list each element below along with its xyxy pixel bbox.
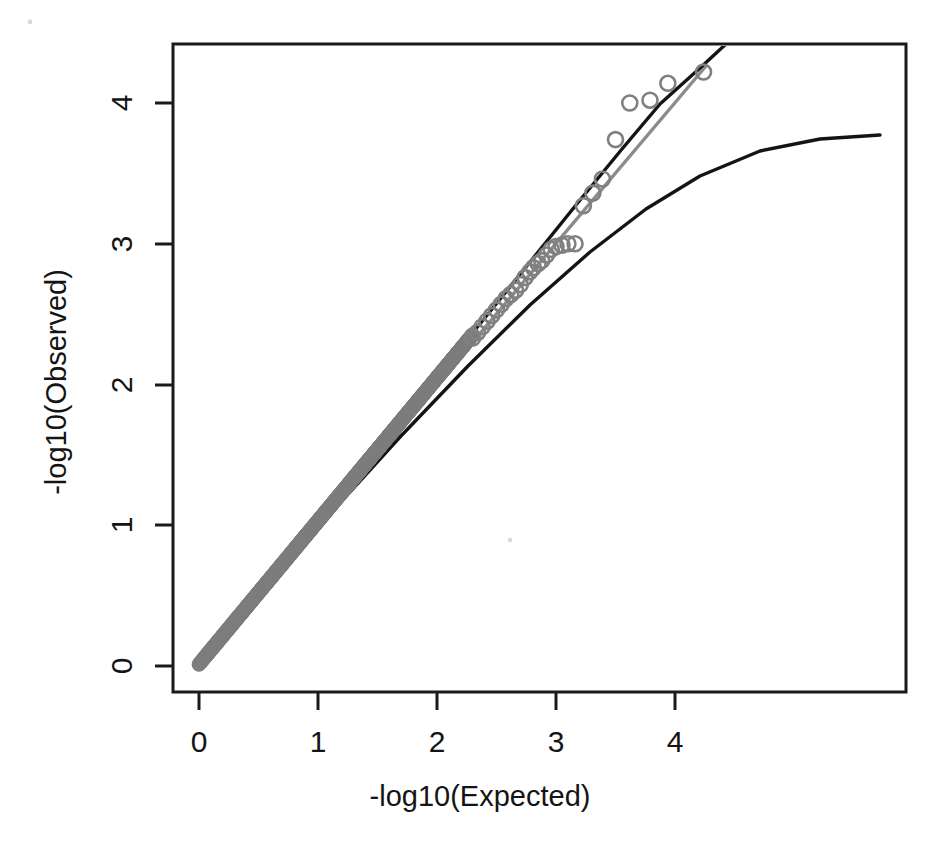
plot-frame: [173, 44, 906, 692]
observed-points-dense-band: [193, 329, 479, 671]
data-point: [643, 93, 658, 108]
data-point: [622, 96, 637, 111]
y-tick-label-1: 1: [105, 517, 138, 534]
scan-speck-mid: [508, 538, 512, 542]
y-tick-label-4: 4: [105, 95, 138, 112]
x-tick-label-0: 0: [191, 725, 208, 758]
y-tick-label-0: 0: [105, 658, 138, 675]
qq-plot-figure: 0 1 2 3 4 0 1 2 3 4 -log10(Expected) -lo…: [0, 0, 944, 853]
y-axis-title: -log10(Observed): [40, 269, 72, 495]
x-tick-label-1: 1: [310, 725, 327, 758]
y-tick-label-2: 2: [105, 377, 138, 394]
x-tick-label-4: 4: [667, 725, 684, 758]
data-point: [660, 76, 675, 91]
x-axis-tick-labels: 0 1 2 3 4: [191, 725, 684, 758]
x-tick-label-2: 2: [429, 725, 446, 758]
x-axis-title: -log10(Expected): [370, 780, 591, 812]
data-point: [608, 132, 623, 147]
qq-plot-canvas: 0 1 2 3 4 0 1 2 3 4 -log10(Expected) -lo…: [0, 0, 944, 853]
x-axis-ticks: [199, 692, 675, 710]
y-axis-tick-labels: 0 1 2 3 4: [105, 95, 138, 675]
y-axis-ticks: [155, 103, 173, 666]
lower-confidence-curve: [199, 135, 880, 666]
y-tick-label-3: 3: [105, 236, 138, 253]
scan-speck-top-left: [28, 20, 33, 25]
x-tick-label-3: 3: [548, 725, 565, 758]
